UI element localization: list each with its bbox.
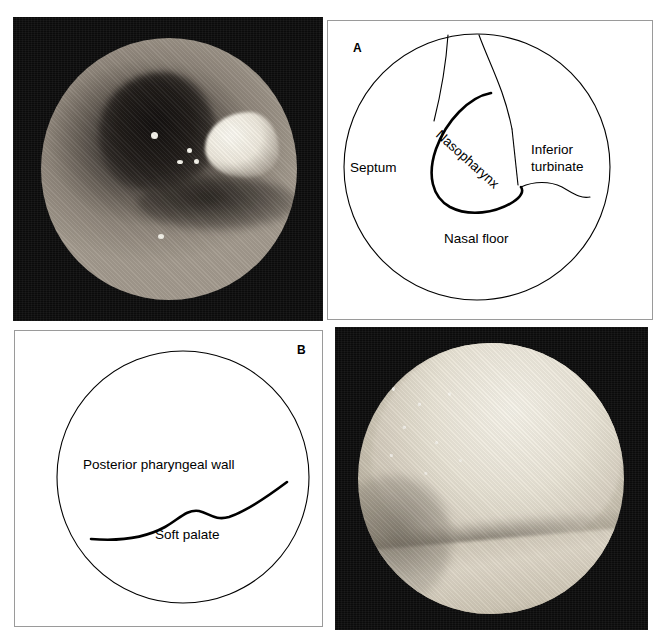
- label-posterior-pharyngeal-wall: Posterior pharyngeal wall: [83, 457, 235, 473]
- inferior-turbinate-border: [521, 183, 590, 198]
- nasopharynx-opening-shadow: [99, 72, 217, 190]
- bottom-right-scope-field: [358, 343, 624, 614]
- specular-highlight: [194, 159, 199, 164]
- panel-b-diagram: B Posterior pharyngeal wall Soft palate: [14, 330, 323, 627]
- panel-a-diagram: A Septum Nasopharynx Inferior turbinate …: [327, 20, 653, 320]
- top-left-scope-field: [41, 38, 297, 300]
- turbinate-highlight: [205, 112, 279, 178]
- label-septum: Septum: [350, 160, 397, 176]
- turbinate-body-edge: [512, 129, 518, 185]
- septum-fold-line: [434, 35, 448, 121]
- bottom-right-photo-panel: [335, 327, 648, 630]
- nasopharynx-outline: [432, 93, 523, 213]
- label-soft-palate: Soft palate: [155, 527, 220, 543]
- label-nasal-floor: Nasal floor: [444, 231, 509, 247]
- specular-highlight: [177, 160, 183, 164]
- panel-b-linework: [15, 331, 324, 628]
- specular-highlight: [158, 234, 164, 239]
- specular-highlight: [151, 132, 158, 139]
- figure-root: A Septum Nasopharynx Inferior turbinate …: [0, 0, 666, 642]
- field-circle-b: [57, 351, 309, 603]
- turbinate-roof-line: [479, 35, 512, 129]
- inferior-shadow-band: [137, 176, 297, 230]
- label-inferior-turbinate-line2: turbinate: [531, 159, 584, 175]
- specular-highlight: [187, 148, 192, 153]
- top-left-photo-panel: [13, 17, 323, 321]
- label-inferior-turbinate-line1: Inferior: [531, 142, 573, 158]
